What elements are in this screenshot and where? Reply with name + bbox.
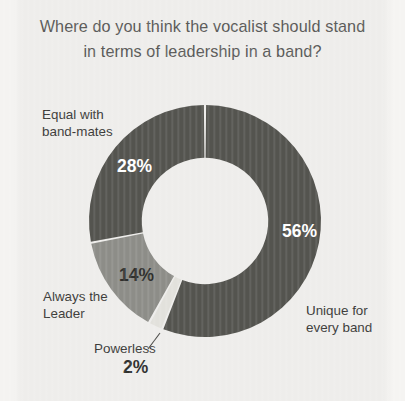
label-equal-with-bandmates: Equal with band-mates (42, 106, 113, 140)
label-unique-for-every-band: Unique for every band (306, 302, 372, 336)
value-always-the-leader: 14% (119, 265, 154, 285)
donut-svg (0, 0, 405, 401)
value-powerless: 2% (123, 357, 148, 377)
label-powerless: Powerless (94, 340, 156, 357)
value-unique-for-every-band: 56% (282, 221, 317, 241)
chart-page: Where do you think the vocalist should s… (0, 0, 405, 401)
value-equal-with-bandmates: 28% (117, 156, 152, 176)
donut-chart (0, 0, 405, 401)
label-always-the-leader: Always the Leader (43, 288, 108, 322)
